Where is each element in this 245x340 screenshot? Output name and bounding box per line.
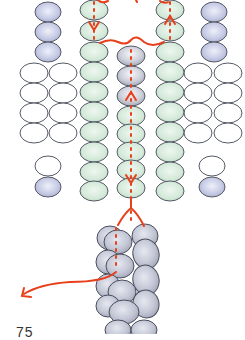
- step-number: 75: [16, 324, 34, 340]
- outer-right-column: [184, 2, 242, 197]
- spiral-rope: [96, 224, 162, 334]
- outer-left-column: [20, 2, 77, 197]
